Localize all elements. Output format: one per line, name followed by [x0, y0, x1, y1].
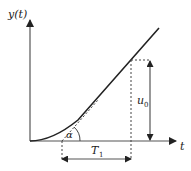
u0-subscript: 0 — [144, 101, 148, 109]
response-curve — [30, 28, 159, 141]
diagram-canvas: y(t) t α T 1 u 0 — [0, 0, 191, 171]
x-axis-label: t — [180, 140, 185, 153]
alpha-label: α — [66, 129, 73, 140]
y-axis-label: y(t) — [7, 8, 27, 21]
t1-subscript: 1 — [99, 151, 103, 159]
alpha-angle-arc — [74, 127, 80, 141]
step-response-diagram: y(t) t α T 1 u 0 — [0, 0, 191, 171]
